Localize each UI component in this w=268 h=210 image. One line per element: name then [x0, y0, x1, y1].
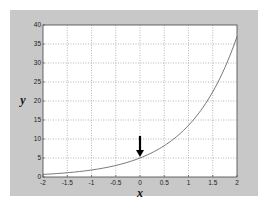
line-chart: -2-1.5-1-0.500.511.52 0510152025303540 x… [0, 0, 268, 210]
x-axis-label: x [136, 186, 143, 200]
y-axis-label: y [18, 93, 26, 107]
y-tick-label: 5 [37, 154, 41, 161]
x-tick-label: 1.5 [208, 179, 217, 186]
y-tick-label: 25 [34, 78, 42, 85]
y-tick-label: 30 [34, 59, 42, 66]
x-tick-label: 0 [138, 179, 142, 186]
y-tick-label: 40 [34, 21, 42, 28]
x-tick-label: 2 [235, 179, 239, 186]
x-tick-label: 0.5 [160, 179, 169, 186]
y-tick-label: 0 [37, 173, 41, 180]
x-tick-label: -1.5 [62, 179, 74, 186]
x-tick-label: 1 [187, 179, 191, 186]
x-tick-label: -1 [89, 179, 95, 186]
y-tick-label: 10 [34, 135, 42, 142]
y-tick-label: 20 [34, 97, 42, 104]
x-tick-label: -2 [40, 179, 46, 186]
y-tick-label: 35 [34, 40, 42, 47]
x-tick-label: -0.5 [110, 179, 122, 186]
y-tick-label: 15 [34, 116, 42, 123]
